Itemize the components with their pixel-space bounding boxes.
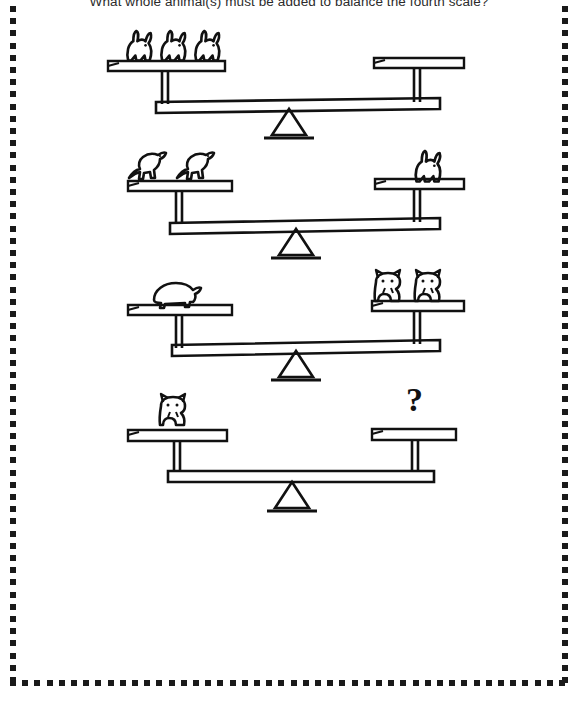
rabbit-icon: [127, 31, 151, 61]
scale-post-right: [414, 311, 420, 344]
border-dot: [562, 531, 568, 537]
balance-scale-4: ?: [0, 384, 578, 514]
border-dot: [339, 680, 345, 686]
scale-pan-right: [374, 58, 464, 68]
scale-pan-left: [128, 305, 232, 315]
border-dot: [522, 680, 528, 686]
border-dot: [10, 604, 16, 610]
border-dot: [10, 665, 16, 671]
rabbit-icon: [195, 31, 219, 61]
border-dot: [108, 680, 114, 686]
scale-pan-left: [128, 430, 227, 441]
border-dot: [388, 680, 394, 686]
border-dot: [303, 680, 309, 686]
border-dot: [562, 567, 568, 573]
scale-beam: [170, 218, 440, 234]
border-dot: [132, 680, 138, 686]
scale-post-left: [162, 71, 168, 104]
border-dot: [562, 628, 568, 634]
border-dot: [559, 680, 565, 686]
scale-pan-left: [128, 181, 232, 191]
border-dot: [10, 6, 16, 12]
border-dot: [22, 680, 28, 686]
scale-beam: [156, 98, 440, 113]
scale-post-left: [176, 315, 182, 348]
border-dot: [364, 680, 370, 686]
border-dot: [95, 680, 101, 686]
border-dot: [376, 680, 382, 686]
border-dot: [562, 592, 568, 598]
border-dot: [352, 680, 358, 686]
border-dot: [449, 680, 455, 686]
border-dot: [315, 680, 321, 686]
border-dot: [156, 680, 162, 686]
border-dot: [254, 680, 260, 686]
border-dot: [10, 616, 16, 622]
border-dot: [562, 6, 568, 12]
border-dot: [278, 680, 284, 686]
border-dot: [169, 680, 175, 686]
balance-scale-1: [0, 22, 578, 152]
scale-pan-right: [372, 301, 464, 311]
border-dot: [10, 567, 16, 573]
border-dot: [10, 555, 16, 561]
rabbit-icon: [416, 151, 440, 181]
cat-jumping-icon: [129, 153, 166, 179]
border-dot: [413, 680, 419, 686]
border-dot: [10, 628, 16, 634]
border-dot: [562, 665, 568, 671]
scale-post-right: [414, 68, 420, 102]
scale-pan-right: [372, 429, 456, 440]
border-dot: [10, 680, 16, 686]
hamster-icon: [375, 270, 400, 301]
border-dot: [47, 680, 53, 686]
border-dot: [144, 680, 150, 686]
border-dot: [562, 604, 568, 610]
border-dot: [242, 680, 248, 686]
scale-post-left: [174, 441, 180, 472]
worksheet-page: What whole animal(s) must be added to ba…: [0, 0, 578, 709]
border-dot: [474, 680, 480, 686]
border-dot: [562, 579, 568, 585]
hamster-icon: [415, 270, 440, 301]
border-dot: [266, 680, 272, 686]
scale-fulcrum: [275, 482, 309, 508]
border-dot: [10, 653, 16, 659]
border-dot: [498, 680, 504, 686]
border-dot: [535, 680, 541, 686]
border-dot: [437, 680, 443, 686]
border-dot: [10, 592, 16, 598]
balance-scale-2: [0, 140, 578, 270]
border-dot: [425, 680, 431, 686]
border-dot: [59, 680, 65, 686]
border-dot: [34, 680, 40, 686]
rabbit-icon: [161, 31, 185, 61]
border-dot: [71, 680, 77, 686]
scale-fulcrum: [272, 109, 306, 135]
border-dot: [562, 640, 568, 646]
border-dot: [120, 680, 126, 686]
cat-jumping-icon: [177, 153, 214, 179]
scale-post-left: [176, 191, 182, 224]
scale-pan-left: [108, 61, 225, 71]
border-dot: [291, 680, 297, 686]
border-dot: [562, 555, 568, 561]
scale-beam: [172, 340, 440, 356]
scale-post-right: [414, 189, 420, 222]
hamster-icon: [160, 394, 185, 425]
border-dot: [486, 680, 492, 686]
border-dot: [10, 640, 16, 646]
border-dot: [562, 616, 568, 622]
border-dot: [461, 680, 467, 686]
scale-beam: [168, 471, 434, 482]
scale-post-right: [412, 440, 418, 471]
border-dot: [510, 680, 516, 686]
border-dot: [10, 579, 16, 585]
border-dot: [230, 680, 236, 686]
border-dot: [10, 543, 16, 549]
border-dot: [562, 653, 568, 659]
page-title: What whole animal(s) must be added to ba…: [0, 0, 578, 9]
border-dot: [193, 680, 199, 686]
border-dot: [547, 680, 553, 686]
border-dot: [327, 680, 333, 686]
